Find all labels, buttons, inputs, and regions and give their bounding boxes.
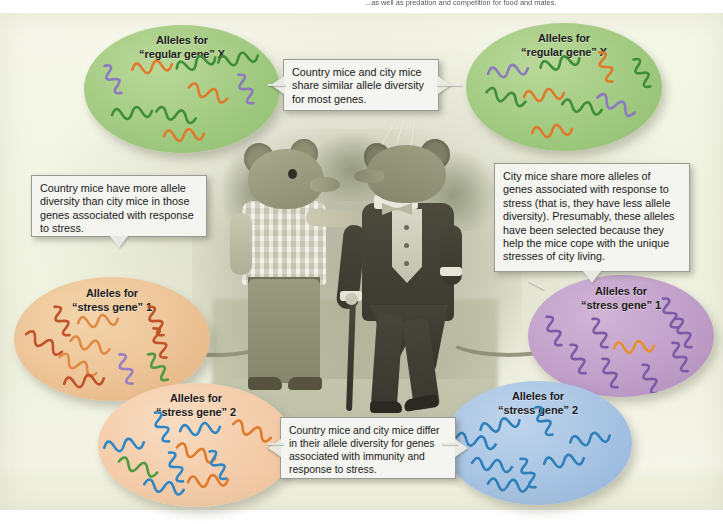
city-mouse-leg	[371, 314, 403, 408]
callout-pointer-left	[268, 439, 281, 457]
callout-top-center-text: Country mice and city mice share similar…	[292, 66, 424, 105]
allele-squiggles	[466, 23, 662, 151]
country-mouse-arm-on-hip	[230, 213, 252, 275]
allele-ellipse-green-right[interactable]: Alleles for “regular gene” X	[466, 23, 662, 151]
allele-squiggles	[528, 275, 714, 397]
callout-bottom-center[interactable]: Country mice and city mice differ in the…	[280, 417, 456, 479]
city-mouse-whisker	[396, 115, 405, 144]
city-mouse-cane	[346, 299, 356, 411]
top-caption-strip: ...as well as predation and competition …	[0, 0, 723, 13]
top-caption-right: ...as well as predation and competition …	[365, 0, 556, 9]
callout-top-center[interactable]: Country mice and city mice share similar…	[283, 59, 439, 111]
callout-left-text: Country mice have more allele diversity …	[40, 182, 194, 234]
callout-pointer-bottom	[583, 271, 601, 283]
leader-line-blue	[442, 443, 458, 445]
callout-right[interactable]: City mice share more alleles of genes as…	[494, 163, 690, 272]
callout-right-text: City mice share more alleles of genes as…	[503, 170, 674, 262]
allele-ellipse-purple-stress1[interactable]: Alleles for “stress gene” 1	[528, 275, 714, 397]
callout-pointer-bottom	[110, 236, 128, 248]
leader-line-peach	[268, 443, 284, 445]
city-mouse-whisker	[411, 116, 415, 146]
figure-plate: Alleles for “regular gene” X	[0, 13, 723, 510]
city-mouse-figure	[348, 129, 488, 411]
city-mouse-button	[404, 225, 409, 230]
allele-squiggles	[98, 383, 294, 507]
city-mouse-snout	[354, 169, 384, 183]
city-mouse-arm	[440, 225, 462, 285]
callout-left[interactable]: Country mice have more allele diversity …	[31, 175, 207, 237]
city-mouse-shoe	[370, 401, 402, 413]
callout-bottom-center-text: Country mice and city mice differ in the…	[289, 425, 440, 475]
city-mouse-button	[404, 243, 409, 248]
allele-ellipse-green-left[interactable]: Alleles for “regular gene” X	[84, 25, 280, 153]
country-mouse-snout	[310, 177, 340, 192]
allele-squiggles	[444, 381, 632, 505]
mice-illustration	[212, 119, 498, 419]
callout-pointer-right	[455, 439, 468, 457]
allele-ellipse-peach-stress2[interactable]: Alleles for “stress gene” 2	[98, 383, 294, 507]
country-mouse-pants	[248, 279, 320, 383]
allele-squiggles	[84, 25, 280, 153]
city-mouse-whisker	[382, 118, 397, 145]
allele-ellipse-blue-stress2[interactable]: Alleles for “stress gene” 2	[444, 381, 632, 505]
figure-root: ...as well as predation and competition …	[0, 0, 723, 524]
leader-line-right-green	[437, 84, 463, 86]
city-mouse-cane-knob	[345, 293, 358, 305]
country-mouse-eye	[288, 169, 297, 179]
city-mouse-cuff	[440, 267, 462, 276]
city-mouse-button	[404, 261, 409, 266]
leader-line-left-green	[268, 84, 286, 86]
